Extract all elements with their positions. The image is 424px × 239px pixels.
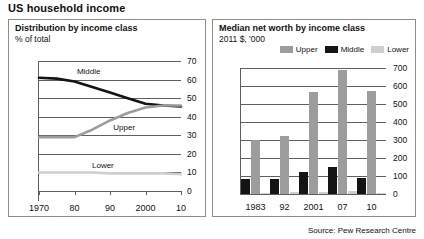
infographic-page: US household income Distribution by inco…: [0, 0, 424, 239]
left-chart-ytick-label: 60: [187, 75, 196, 85]
right-chart-category-label: 2001: [303, 202, 323, 212]
right-chart-subtitle: 2011 $, '000: [219, 34, 265, 44]
source-note: Source: Pew Research Centre: [308, 226, 416, 235]
left-chart-xtick-label: 1970: [29, 203, 49, 213]
legend-item-middle: Middle: [325, 45, 365, 54]
right-chart-ytick-label: 100: [393, 171, 407, 181]
left-chart-series-group: [39, 61, 181, 191]
right-chart-ytick-label: 700: [393, 63, 407, 73]
legend-label: Upper: [296, 45, 318, 54]
bar-upper-1983: [251, 140, 260, 194]
left-chart-ytick-label: 40: [187, 112, 196, 122]
legend-item-upper: Upper: [280, 45, 318, 54]
right-chart-ytick-label: 300: [393, 135, 407, 145]
right-chart-gridline: [241, 86, 386, 87]
right-chart-ytick-label: 400: [393, 117, 407, 127]
right-chart-gridline: [241, 68, 386, 69]
right-chart-ytick-label: 600: [393, 81, 407, 91]
bar-middle-2001: [299, 172, 308, 195]
bar-middle-92: [270, 179, 279, 194]
right-chart-category-label: 1983: [245, 202, 265, 212]
right-chart-category-label: 92: [279, 202, 289, 212]
bar-lower-07: [348, 191, 357, 194]
left-chart-xtick: [110, 191, 111, 195]
legend-swatch-middle-icon: [325, 46, 338, 53]
right-chart-ytick-label: 0: [393, 189, 398, 199]
left-chart-line-lower: [39, 172, 181, 174]
legend-swatch-lower-icon: [371, 46, 384, 53]
left-chart-plot-area: 01020304050607019708090200010MiddleUpper…: [39, 61, 181, 191]
right-chart-ytick-label: 500: [393, 99, 407, 109]
left-chart-series-label-lower: Lower: [92, 161, 114, 170]
bar-middle-10: [357, 178, 366, 194]
left-chart-ytick-label: 10: [187, 167, 196, 177]
legend-label: Middle: [341, 45, 365, 54]
bar-lower-10: [377, 193, 386, 195]
bar-lower-2001: [319, 192, 328, 194]
page-title: US household income: [8, 2, 125, 14]
left-chart-subtitle: % of total: [15, 34, 50, 44]
left-chart-xtick: [146, 191, 147, 195]
left-chart-xtick-label: 90: [105, 203, 115, 213]
right-chart-y-axis: [240, 68, 241, 195]
right-chart-legend: UpperMiddleLower: [280, 45, 409, 54]
legend-swatch-upper-icon: [280, 46, 293, 53]
bar-middle-07: [328, 167, 337, 194]
right-chart-category-label: 10: [366, 202, 376, 212]
left-chart-xtick-label: 80: [69, 203, 79, 213]
left-chart-ytick-label: 70: [187, 56, 196, 66]
left-chart-series-label-upper: Upper: [113, 123, 135, 132]
bar-middle-1983: [241, 179, 250, 194]
left-chart-xtick-label: 10: [176, 203, 186, 213]
left-chart-line-upper: [39, 106, 181, 138]
left-chart-ytick-label: 30: [187, 130, 196, 140]
left-chart-line-middle: [39, 78, 181, 107]
legend-item-lower: Lower: [371, 45, 409, 54]
legend-label: Lower: [387, 45, 409, 54]
right-chart-category-label: 07: [337, 202, 347, 212]
left-chart-xtick: [39, 191, 40, 195]
right-chart-plot-area: 010020030040050060070019839220010710: [241, 68, 386, 194]
left-chart-ytick-label: 20: [187, 149, 196, 159]
left-chart-series-label-middle: Middle: [77, 67, 101, 76]
right-chart-ytick-label: 200: [393, 153, 407, 163]
left-chart-xtick-label: 2000: [135, 203, 155, 213]
panel-median-net-worth-by-income-class: Median net worth by income class 2011 $,…: [212, 19, 416, 217]
left-chart-ytick-label: 50: [187, 93, 196, 103]
left-chart-xtick: [181, 191, 182, 195]
bar-upper-92: [280, 136, 289, 194]
bar-upper-07: [338, 70, 347, 194]
panel-distribution-by-income-class: Distribution by income class % of total …: [8, 19, 206, 217]
bar-lower-1983: [261, 193, 270, 195]
bar-upper-10: [367, 91, 376, 195]
right-chart-axis-baseline: [241, 194, 386, 195]
left-chart-xtick: [75, 191, 76, 195]
right-chart-title: Median net worth by income class: [219, 23, 365, 33]
left-chart-ytick-label: 0: [187, 186, 192, 196]
bar-upper-2001: [309, 92, 318, 194]
bar-lower-92: [290, 192, 299, 194]
left-chart-title: Distribution by income class: [15, 23, 138, 33]
